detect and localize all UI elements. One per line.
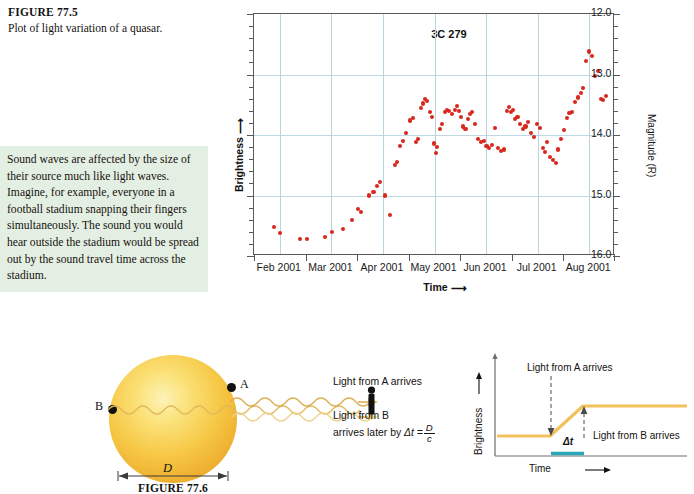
chart-axis-tick (249, 159, 254, 160)
schematic-y-axis-label: Brightness (473, 408, 484, 455)
chart-data-point (401, 139, 405, 143)
chart-axis-tick (613, 38, 618, 39)
figure-775-text: Plot of light variation of a quasar. (8, 21, 238, 36)
chart-title: 3C 279 (389, 28, 509, 40)
chart-gridline-vertical (435, 14, 436, 254)
chart-data-point (330, 230, 334, 234)
schematic-annotation-light-a: Light from A arrives (527, 362, 613, 373)
chart-axis-tick (613, 220, 618, 221)
chart-data-point (587, 49, 591, 53)
chart-data-point (341, 227, 345, 231)
chart-data-point (350, 218, 354, 222)
chart-x-tick-label: Feb 2001 (252, 261, 306, 273)
annotation-light-from-b-line1: Light from B (333, 410, 389, 421)
chart-data-point (393, 163, 397, 167)
chart-axis-tick (614, 254, 615, 261)
chart-data-point (493, 126, 497, 130)
sidebar-note-text: Sound waves are affected by the size of … (0, 146, 208, 285)
annotation-light-from-b: Light from B arrives later by Δt =Dc (333, 409, 435, 444)
chart-data-point (502, 147, 506, 151)
chart-axis-tick (613, 62, 618, 63)
chart-axis-tick (613, 75, 620, 76)
chart-data-point (428, 110, 432, 114)
chart-y-tick-label: 13.0 (591, 67, 611, 79)
chart-data-point (438, 127, 442, 131)
chart-data-point (543, 150, 547, 154)
chart-data-point (518, 122, 522, 126)
chart-x-tick-label: Aug 2001 (561, 261, 615, 273)
chart-axis-tick (613, 123, 618, 124)
chart-axis-tick (306, 254, 307, 261)
chart-data-point (487, 146, 491, 150)
fraction-d-over-c: Dc (424, 423, 435, 444)
chart-gridline-horizontal (254, 135, 613, 136)
chart-axis-tick (613, 111, 618, 112)
chart-data-point (425, 99, 429, 103)
chart-gridline-vertical (331, 14, 332, 254)
figure-776-caption: FIGURE 77.6 (103, 482, 243, 494)
chart-data-point (559, 137, 563, 141)
annotation-delta-t: Δt = (404, 427, 423, 438)
schematic-delta-t-label: Δt (548, 436, 588, 447)
chart-data-point (529, 131, 533, 135)
chart-axis-tick (613, 232, 618, 233)
chart-gridline-horizontal (254, 196, 613, 197)
chart-data-point (470, 110, 474, 114)
diameter-label: D (163, 461, 172, 476)
chart-axis-tick (247, 256, 254, 257)
chart-axis-tick (249, 87, 254, 88)
chart-axis-tick (249, 62, 254, 63)
chart-data-point (298, 237, 302, 241)
chart-data-point (305, 237, 309, 241)
brightness-vs-time-schematic: Brightness Time Light from A arrives Lig… (465, 350, 694, 483)
chart-gridline-vertical (538, 14, 539, 254)
chart-axis-tick (460, 254, 461, 261)
chart-data-point (383, 193, 387, 197)
chart-axis-tick (249, 50, 254, 51)
chart-data-point (556, 147, 560, 151)
chart-axis-tick (249, 244, 254, 245)
chart-data-point (523, 124, 527, 128)
chart-x-axis-title-text: Time (423, 281, 447, 293)
chart-y-tick-label: 16.0 (591, 248, 611, 260)
chart-data-point (378, 180, 382, 184)
chart-axis-tick (249, 111, 254, 112)
chart-data-point (570, 110, 574, 114)
chart-gridline-vertical (486, 14, 487, 254)
chart-y-axis-title-left: Brightness⟶ (233, 118, 246, 192)
chart-data-point (565, 116, 569, 120)
chart-x-axis-title: Time⟶ (385, 281, 505, 294)
chart-data-point (416, 137, 420, 141)
chart-data-point (455, 104, 459, 108)
chart-data-point (398, 144, 402, 148)
chart-data-point (414, 140, 418, 144)
chart-data-point (375, 184, 379, 188)
chart-axis-tick (247, 14, 254, 15)
chart-data-point (601, 98, 605, 102)
chart-axis-tick (249, 232, 254, 233)
chart-axis-tick (512, 254, 513, 261)
chart-axis-tick (247, 75, 254, 76)
chart-data-point (562, 128, 566, 132)
chart-axis-tick (613, 50, 618, 51)
chart-axis-tick (613, 87, 618, 88)
chart-axis-tick (613, 14, 620, 15)
quasar-light-curve-chart: Brightness⟶ 3C 279 12.013.014.015.016.0 … (225, 2, 693, 302)
chart-y-axis-title-left-text: Brightness (233, 137, 245, 192)
chart-axis-tick (249, 99, 254, 100)
chart-axis-tick (249, 123, 254, 124)
chart-data-point (450, 112, 454, 116)
chart-axis-tick (613, 208, 618, 209)
chart-data-point (604, 94, 608, 98)
chart-data-point (440, 122, 444, 126)
chart-axis-tick (613, 147, 618, 148)
chart-axis-tick (249, 38, 254, 39)
chart-data-point (367, 193, 371, 197)
chart-axis-tick (563, 254, 564, 261)
chart-axis-tick (613, 244, 618, 245)
chart-data-point (526, 120, 530, 124)
chart-x-tick-label: Mar 2001 (303, 261, 357, 273)
chart-data-point (278, 231, 282, 235)
chart-data-point (538, 126, 542, 130)
